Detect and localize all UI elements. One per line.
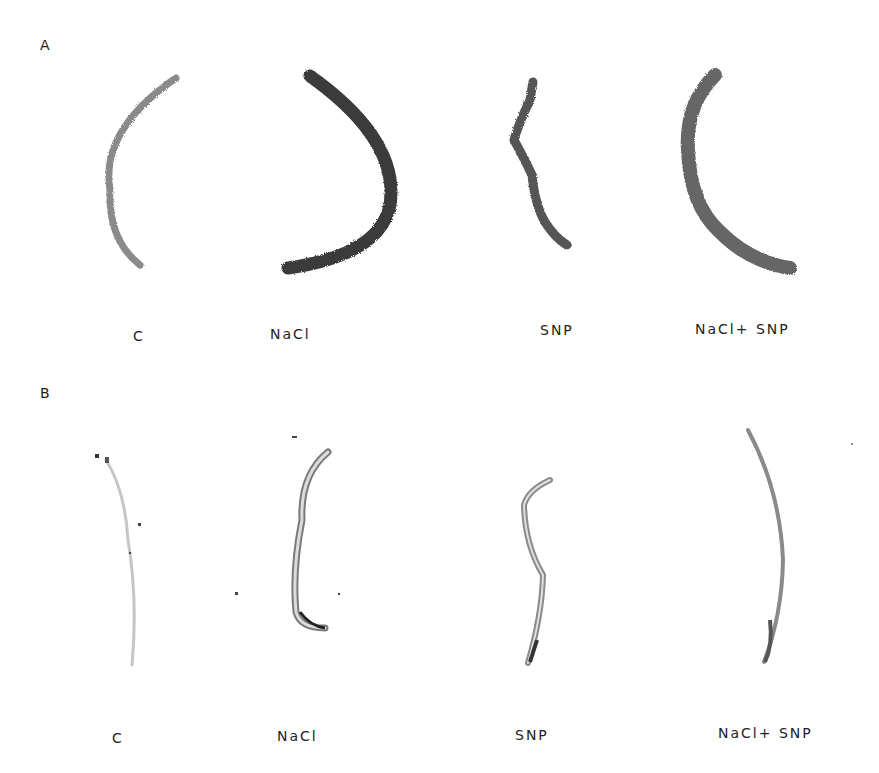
caption-b-nacl-snp: NaCl+ SNP: [718, 725, 813, 741]
caption-a-c: C: [133, 328, 145, 344]
sample-b-snp-arc: [524, 480, 550, 663]
caption-a-nacl: NaCl: [270, 326, 311, 342]
caption-a-snp: SNP: [540, 322, 574, 338]
figure-images: [0, 0, 879, 773]
sample-b-nacl-snp-arc: [748, 430, 783, 662]
panel-b-images: [95, 430, 853, 665]
sample-a-nacl-snp-arc: [688, 75, 790, 268]
sample-a-snp-arc: [514, 82, 567, 245]
sample-a-c-arc: [109, 78, 176, 265]
caption-b-snp: SNP: [515, 727, 549, 743]
sample-a-nacl-arc: [288, 76, 391, 268]
caption-b-c: C: [112, 730, 124, 746]
sample-b-c-arc: [106, 460, 134, 665]
caption-a-nacl-snp: NaCl+ SNP: [695, 321, 790, 337]
caption-b-nacl: NaCl: [277, 728, 318, 744]
panel-a-images: [109, 75, 790, 268]
